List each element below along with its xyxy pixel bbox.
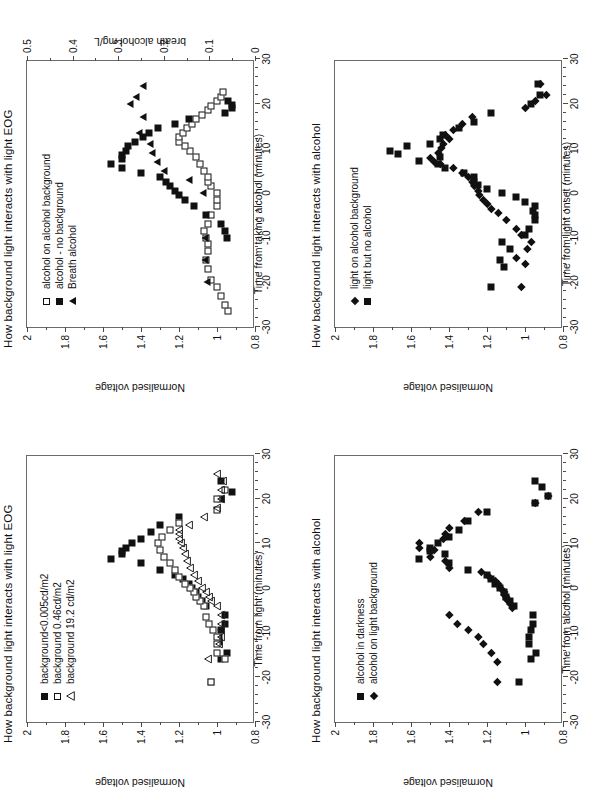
data-point xyxy=(531,203,538,210)
y-axis-minor-tick xyxy=(122,722,123,725)
y-axis-tick xyxy=(449,722,450,727)
x-axis-minor-tick xyxy=(255,480,258,481)
y-axis-minor-tick xyxy=(236,327,237,330)
x-axis-tick-label: 30 xyxy=(261,53,272,64)
data-point xyxy=(516,678,523,685)
data-point xyxy=(442,165,449,172)
data-point xyxy=(225,308,232,315)
data-point xyxy=(155,540,162,547)
data-point xyxy=(415,555,422,562)
y-axis-minor-tick xyxy=(544,722,545,725)
data-point xyxy=(394,150,401,157)
data-point xyxy=(147,529,154,536)
legend-item: background 0.46cd/m2 xyxy=(51,574,64,703)
x-axis-tick-label: 20 xyxy=(261,493,272,504)
data-point xyxy=(160,167,167,175)
y-axis-tick-label: 1.8 xyxy=(60,730,71,744)
x-axis-minor-tick xyxy=(255,85,258,86)
panel-inner: How background light interacts with alco… xyxy=(308,423,604,795)
y-axis-tick-label: 2 xyxy=(330,730,341,736)
data-point xyxy=(217,292,224,299)
secondary-y-axis-tick xyxy=(255,56,256,61)
y-axis-tick-label: 1.2 xyxy=(482,730,493,744)
x-axis-tick-label: -20 xyxy=(261,670,272,684)
legend: light on alcohol backgroundlight but no … xyxy=(348,167,374,308)
x-axis-title: Time from alcohol (minutes) xyxy=(560,544,572,674)
y-axis-tick xyxy=(141,722,142,727)
x-axis-minor-tick xyxy=(563,94,566,95)
x-axis-minor-tick xyxy=(255,317,258,318)
y-axis-tick xyxy=(563,722,564,727)
data-point xyxy=(155,125,162,132)
legend-label: background 0.46cd/m2 xyxy=(51,582,64,684)
data-point xyxy=(455,125,462,132)
data-point xyxy=(128,540,135,547)
x-axis-minor-tick xyxy=(255,129,258,130)
legend-item: alcohol on light background xyxy=(367,562,380,703)
data-point xyxy=(527,656,534,663)
data-point xyxy=(213,470,221,479)
secondary-y-axis-tick xyxy=(164,56,165,61)
secondary-y-axis-minor-tick xyxy=(232,58,233,61)
data-point xyxy=(223,234,230,241)
data-point xyxy=(204,265,211,272)
y-axis-minor-tick xyxy=(392,722,393,725)
x-axis-minor-tick xyxy=(563,112,566,113)
data-point xyxy=(202,212,209,219)
data-point xyxy=(217,610,225,619)
legend: background<0.005cd/m2background 0.46cd/m… xyxy=(38,574,77,703)
y-axis-minor-tick xyxy=(198,722,199,725)
panel-inner: How background light interacts with ligh… xyxy=(0,423,296,795)
x-axis-minor-tick xyxy=(563,694,566,695)
legend: alcohol on alcohol backgroundalcohol - n… xyxy=(40,154,79,308)
x-axis-minor-tick xyxy=(255,516,258,517)
data-point xyxy=(487,649,495,657)
y-axis-tick xyxy=(65,722,66,727)
data-point xyxy=(440,131,447,138)
y-axis-tick-label: 1.2 xyxy=(174,335,185,349)
y-axis-tick xyxy=(27,722,28,727)
x-axis-tick xyxy=(563,453,568,454)
data-point xyxy=(434,160,441,167)
data-point xyxy=(204,241,211,248)
secondary-y-axis-minor-tick xyxy=(50,58,51,61)
y-axis-minor-tick xyxy=(160,327,161,330)
y-axis-tick xyxy=(525,327,526,332)
data-point xyxy=(204,248,211,255)
data-point xyxy=(185,521,193,530)
data-point xyxy=(502,216,510,224)
data-point xyxy=(214,649,221,656)
y-axis-tick xyxy=(335,722,336,727)
data-point xyxy=(217,221,224,228)
legend-marker-filled-triangle-icon xyxy=(69,298,76,306)
x-axis-minor-tick xyxy=(563,299,566,300)
data-point xyxy=(387,147,394,154)
secondary-y-axis-minor-tick xyxy=(141,58,142,61)
legend-item: alcohol - no background xyxy=(53,154,66,308)
y-axis-tick-label: 1 xyxy=(212,335,223,341)
x-axis-minor-tick xyxy=(563,121,566,122)
y-axis-tick-label: 1 xyxy=(212,730,223,736)
data-point xyxy=(132,138,139,145)
data-point xyxy=(404,143,411,150)
x-axis-minor-tick xyxy=(255,685,258,686)
y-axis-tick-label: 1 xyxy=(520,335,531,341)
legend-label: alcohol - no background xyxy=(53,182,66,289)
x-axis-tick-label: 20 xyxy=(569,98,580,109)
figure-canvas: How background light interacts with ligh… xyxy=(0,0,616,795)
x-axis-minor-tick xyxy=(255,94,258,95)
y-axis-minor-tick xyxy=(506,327,507,330)
data-point xyxy=(522,232,529,239)
x-axis-minor-tick xyxy=(255,308,258,309)
data-point xyxy=(133,93,140,101)
x-axis-minor-tick xyxy=(563,533,566,534)
data-point xyxy=(470,174,477,181)
data-point xyxy=(461,169,468,176)
y-axis-tick-label: 1.6 xyxy=(98,335,109,349)
legend-marker xyxy=(41,690,48,703)
data-point xyxy=(501,263,508,270)
y-axis-tick xyxy=(411,327,412,332)
x-axis-minor-tick xyxy=(255,67,258,68)
y-axis-tick-label: 0.8 xyxy=(558,730,569,744)
data-point xyxy=(200,512,208,521)
